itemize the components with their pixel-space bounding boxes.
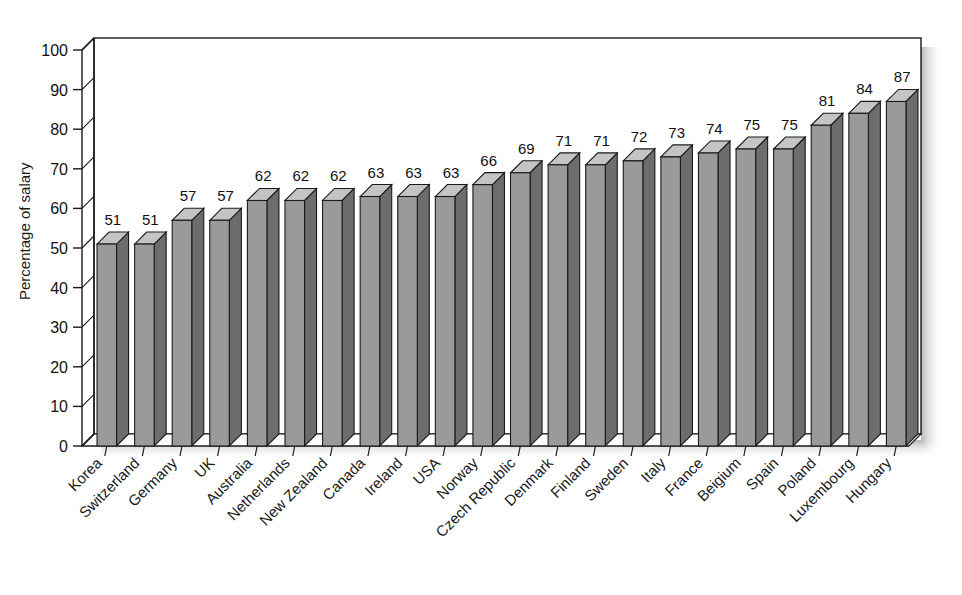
bar-value-label: 84 [856,80,873,97]
y-tick-depth [82,315,94,327]
category-label-group: KoreaSwitzerlandGermanyUKAustraliaNether… [65,454,895,541]
bar-value-label: 75 [781,116,798,133]
bar-column [135,232,167,446]
y-tick-depth [82,38,94,50]
bar-side-face [417,185,429,446]
category-label: Ireland [361,454,405,498]
bar-side-face [643,149,655,446]
bar-side-face [680,145,692,446]
bar-column [323,188,355,446]
bar-side-face [868,101,880,446]
bar-front-face [849,113,869,446]
bar-column [247,188,279,446]
bar-value-label: 63 [443,164,460,181]
bar-column [285,188,317,446]
bar-value-label: 71 [556,132,573,149]
bar-side-face [305,188,317,446]
bar-value-label: 63 [405,164,422,181]
bar-column [360,185,392,446]
bar-column [398,185,430,446]
y-tick-depth [82,355,94,367]
bar-value-label: 74 [706,120,723,137]
bar-side-face [267,188,279,446]
bar-value-label: 57 [217,187,234,204]
bar-column [698,141,730,446]
bar-side-face [455,185,467,446]
y-tick-label: 20 [50,359,68,376]
y-tick-depth [82,157,94,169]
bar-value-label: 51 [142,211,159,228]
bar-front-face [398,197,418,446]
bar-column [97,232,129,446]
bar-front-face [661,157,681,446]
bar-value-label: 62 [330,167,347,184]
y-tick-group: 0102030405060708090100 [41,38,94,455]
bar-front-face [623,161,643,446]
y-tick-depth [82,196,94,208]
bar-side-face [380,185,392,446]
bar-column [849,101,881,446]
y-tick-label: 0 [59,438,68,455]
bar-side-face [756,137,768,446]
bar-front-face [698,153,718,446]
y-axis-title: Percentage of salary [16,162,33,300]
y-tick-label: 80 [50,121,68,138]
bar-value-label: 71 [593,132,610,149]
bar-front-face [360,197,380,446]
bar-chart: 0102030405060708090100 Percentage of sal… [0,0,962,595]
bar-column [811,113,843,446]
bar-front-face [135,244,155,446]
bar-side-face [530,161,542,446]
bar-front-face [285,200,305,446]
y-tick-depth [82,117,94,129]
y-tick-depth [82,394,94,406]
bar-side-face [605,153,617,446]
y-tick-depth [82,236,94,248]
bar-value-label: 63 [368,164,385,181]
y-tick-label: 50 [50,240,68,257]
y-tick-label: 100 [41,42,68,59]
bar-column [435,185,467,446]
y-tick-label: 90 [50,82,68,99]
bar-value-label: 72 [631,128,648,145]
bar-column [172,208,204,446]
bar-side-face [492,173,504,446]
bar-front-face [473,185,493,446]
bar-side-face [192,208,204,446]
y-tick-label: 60 [50,200,68,217]
bar-side-face [229,208,241,446]
bar-side-face [906,89,918,446]
bar-column [736,137,768,446]
bar-side-face [718,141,730,446]
y-tick-label: 30 [50,319,68,336]
y-tick-depth [82,78,94,90]
bar-value-label: 73 [668,124,685,141]
bar-column [886,89,918,446]
y-tick-label: 40 [50,280,68,297]
bar-front-face [886,101,906,446]
y-tick-label: 10 [50,398,68,415]
bar-front-face [774,149,794,446]
chart-canvas: 0102030405060708090100 Percentage of sal… [0,0,962,595]
bar-column [210,208,242,446]
category-label: Canada [319,454,369,504]
bar-side-face [568,153,580,446]
bar-value-label: 66 [480,152,497,169]
bar-column [661,145,693,446]
bar-front-face [172,220,192,446]
bar-front-face [511,173,531,446]
bar-value-label: 57 [180,187,197,204]
bar-front-face [586,165,606,446]
bar-column [548,153,580,446]
bar-front-face [548,165,568,446]
bar-front-face [811,125,831,446]
bar-side-face [342,188,354,446]
bar-front-face [435,197,455,446]
bar-front-face [210,220,230,446]
y-tick-depth [82,276,94,288]
y-tick-label: 70 [50,161,68,178]
bar-value-label: 87 [894,68,911,85]
bar-value-label: 62 [255,167,272,184]
bar-value-label: 51 [104,211,121,228]
bar-value-label: 69 [518,140,535,157]
